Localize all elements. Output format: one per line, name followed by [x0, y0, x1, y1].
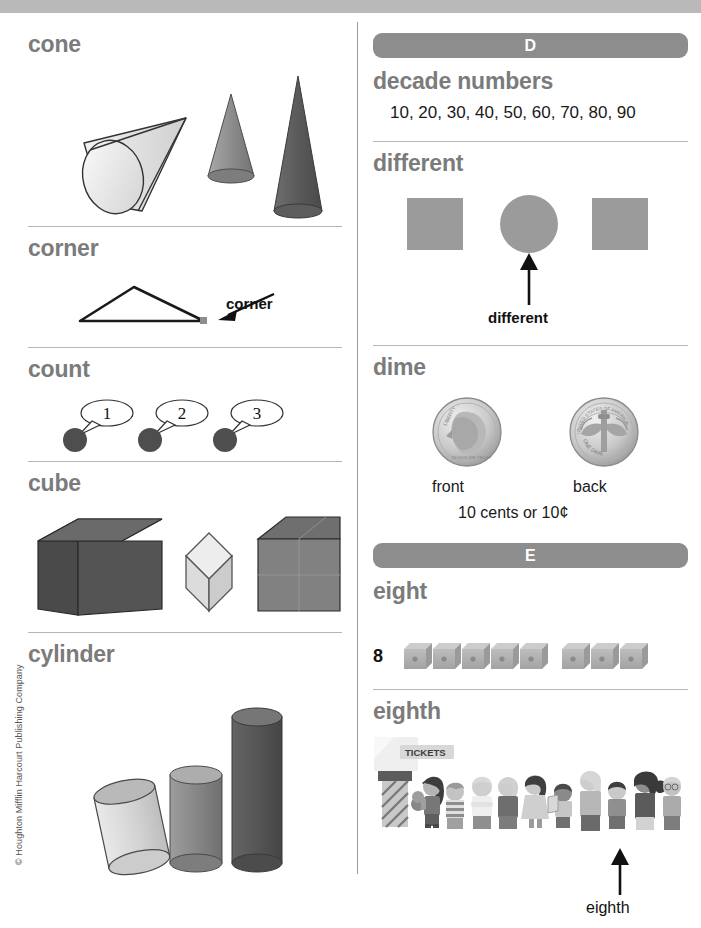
term-dime: dime: [373, 354, 426, 381]
eight-numeral: 8: [373, 646, 383, 667]
term-cone: cone: [28, 31, 81, 58]
eighth-callout-label: eighth: [586, 899, 630, 917]
person-5: [521, 775, 549, 828]
term-different: different: [373, 150, 463, 177]
person-9: [634, 771, 667, 830]
svg-text:1: 1: [103, 404, 112, 423]
tickets-sign-text: TICKETS: [405, 747, 446, 758]
divider-after-decade-numbers: [373, 141, 688, 142]
dime-back: UNITED STATES OF AMERICA ONE DIME: [570, 398, 638, 466]
letter-bar-e: E: [373, 543, 688, 568]
right-column: D decade numbers 10, 20, 30, 40, 50, 60,…: [358, 13, 701, 928]
light-cylinder: [92, 774, 172, 879]
counter-group-1: 1: [63, 400, 133, 452]
corner-callout-label: corner: [226, 295, 273, 312]
top-gray-band: [0, 0, 701, 13]
term-eight: eight: [373, 578, 427, 605]
different-arrow: [513, 251, 547, 307]
term-cylinder: cylinder: [28, 641, 115, 668]
term-eighth: eighth: [373, 698, 441, 725]
dime-back-label: back: [573, 478, 607, 496]
shape-circle-middle: [500, 195, 558, 253]
person-2: [446, 783, 464, 829]
counter-group-2: 2: [138, 400, 208, 452]
term-corner: corner: [28, 235, 98, 262]
different-callout-label: different: [488, 309, 548, 326]
cone-figure: [58, 71, 326, 226]
divider-after-corner: [28, 347, 342, 348]
svg-text:2: 2: [178, 404, 187, 423]
cylinder-figure: [86, 703, 286, 883]
left-column: cone: [0, 13, 357, 928]
shape-square-left: [407, 198, 463, 250]
dark-cylinder: [232, 708, 282, 872]
person-4: [498, 777, 518, 829]
letter-bar-d: D: [373, 33, 688, 58]
person-1: [411, 777, 444, 828]
decade-numbers-value: 10, 20, 30, 40, 50, 60, 70, 80, 90: [390, 103, 636, 123]
cube-figure: [34, 511, 344, 621]
divider-after-cone: [28, 226, 342, 227]
dime-value-text: 10 cents or 10¢: [458, 504, 568, 522]
corner-figure: [58, 269, 338, 331]
divider-after-eight: [373, 689, 688, 690]
svg-text:IN GOD WE TRUST: IN GOD WE TRUST: [452, 455, 492, 460]
count-figure: 1 2 3: [58, 395, 298, 457]
textbook-glossary-page: © Houghton Mifflin Harcourt Publishing C…: [0, 0, 701, 928]
medium-cylinder: [170, 766, 222, 872]
svg-text:3: 3: [253, 404, 262, 423]
person-6: [548, 784, 572, 828]
counter-group-3: 3: [213, 400, 283, 452]
dark-cube: [38, 519, 162, 615]
term-decade-numbers: decade numbers: [373, 68, 553, 95]
dime-front: LIBERTY IN GOD WE TRUST: [433, 398, 501, 466]
eighth-arrow: [605, 846, 635, 896]
divider-after-different: [373, 345, 688, 346]
shape-square-right: [592, 198, 648, 250]
term-count: count: [28, 356, 90, 383]
person-10: [663, 777, 681, 830]
person-3: [471, 777, 493, 829]
dime-front-label: front: [432, 478, 464, 496]
divider-after-count: [28, 461, 342, 462]
dime-coins-figure: LIBERTY IN GOD WE TRUST: [432, 396, 642, 468]
term-cube: cube: [28, 470, 81, 497]
eighth-line-illustration: TICKETS: [372, 735, 690, 845]
person-8-eighth: [608, 782, 626, 829]
light-cube: [186, 533, 232, 611]
divider-after-cube: [28, 632, 342, 633]
gray-grid-cube: [258, 517, 340, 611]
person-7: [580, 771, 601, 831]
eight-cubes-figure: [402, 635, 652, 675]
